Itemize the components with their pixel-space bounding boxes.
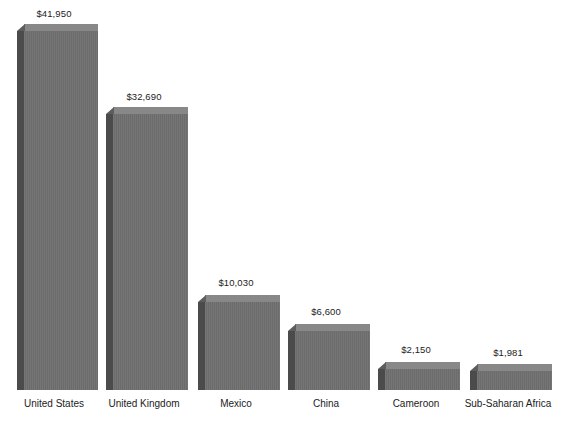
bar-group-sub-saharan-africa[interactable]: $1,981 Sub-Saharan Africa	[464, 0, 552, 425]
bar-category-label: Mexico	[192, 398, 280, 410]
bar-value-label: $6,600	[282, 306, 370, 317]
bar-value-label: $1,981	[464, 347, 552, 358]
bar-value-label: $32,690	[100, 91, 188, 102]
bar-top-face	[205, 295, 280, 302]
bar-top-face	[385, 362, 460, 369]
bar-group-cameroon[interactable]: $2,150 Cameroon	[372, 0, 460, 425]
bar-category-label: China	[282, 398, 370, 410]
bar-front-face	[295, 331, 370, 390]
bar-3d-shape	[17, 24, 98, 390]
bar-value-label: $10,030	[192, 277, 280, 288]
bar-top-face	[24, 24, 98, 31]
bar-category-label: Sub-Saharan Africa	[464, 398, 552, 410]
bar-top-face	[295, 324, 370, 331]
bar-3d-shape	[198, 295, 280, 390]
bar-category-label: Cameroon	[372, 398, 460, 410]
bar-top-face	[477, 364, 552, 371]
bar-3d-shape	[288, 324, 370, 390]
bar-group-china[interactable]: $6,600 China	[282, 0, 370, 425]
bar-3d-shape	[470, 364, 552, 390]
bar-group-united-states[interactable]: $41,950 United States	[10, 0, 98, 425]
bar-front-face	[24, 31, 98, 390]
bar-front-face	[477, 371, 552, 390]
bar-front-face	[113, 114, 188, 390]
bar-3d-shape	[106, 107, 188, 390]
bar-front-face	[205, 302, 280, 390]
bar-value-label: $2,150	[372, 344, 460, 355]
bar-chart-plot-area: $41,950 United States $32,690 United Kin…	[0, 0, 568, 425]
bar-top-face	[113, 107, 188, 114]
bar-front-face	[385, 369, 460, 390]
bar-group-united-kingdom[interactable]: $32,690 United Kingdom	[100, 0, 188, 425]
bar-3d-shape	[378, 362, 460, 390]
bar-top-bevel	[106, 107, 114, 114]
bar-category-label: United States	[10, 398, 98, 410]
bar-value-label: $41,950	[10, 8, 98, 19]
chart-canvas: $41,950 United States $32,690 United Kin…	[0, 0, 568, 425]
bar-group-mexico[interactable]: $10,030 Mexico	[192, 0, 280, 425]
bar-category-label: United Kingdom	[100, 398, 188, 410]
